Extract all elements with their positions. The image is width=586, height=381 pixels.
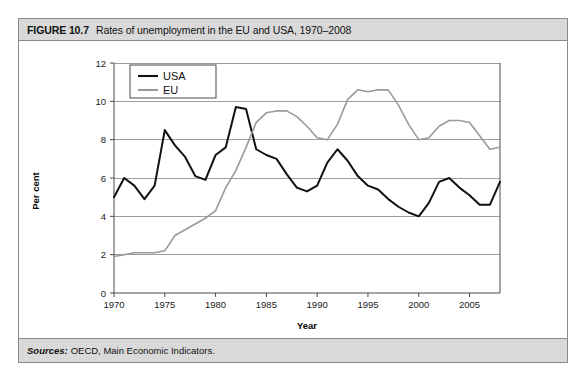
y-tick-label: 0 xyxy=(101,288,106,299)
plot-canvas: 024681012 197019751980198519901995200020… xyxy=(19,41,567,338)
y-tick-label: 8 xyxy=(101,134,106,145)
x-tick-label: 2005 xyxy=(459,299,480,310)
figure-title-bar: FIGURE 10.7 Rates of unemployment in the… xyxy=(19,19,567,41)
figure-container: FIGURE 10.7 Rates of unemployment in the… xyxy=(18,18,568,363)
figure-number: FIGURE 10.7 xyxy=(27,24,89,36)
x-tick-label: 1985 xyxy=(256,299,277,310)
series-line-eu xyxy=(114,90,500,257)
figure-source-bar: Sources: OECD, Main Economic Indicators. xyxy=(19,338,567,362)
legend-label-usa: USA xyxy=(163,70,186,82)
y-tick-label: 4 xyxy=(101,211,106,222)
data-series xyxy=(114,90,500,257)
figure-caption: Rates of unemployment in the EU and USA,… xyxy=(96,24,351,36)
series-line-usa xyxy=(114,107,500,216)
x-tick-label: 1990 xyxy=(307,299,328,310)
y-tick-label: 2 xyxy=(101,249,106,260)
unemployment-line-chart: 024681012 197019751980198519901995200020… xyxy=(19,41,567,339)
legend-label-eu: EU xyxy=(163,84,178,96)
x-tick-label: 1995 xyxy=(357,299,378,310)
x-axis-title: Year xyxy=(297,320,317,331)
source-label: Sources: xyxy=(27,345,68,356)
y-axis-tick-labels: 024681012 xyxy=(95,58,106,299)
y-tick-label: 12 xyxy=(95,58,106,69)
source-text: OECD, Main Economic Indicators. xyxy=(71,345,215,356)
x-tick-label: 1970 xyxy=(103,299,124,310)
y-tick-label: 10 xyxy=(95,96,106,107)
x-axis-tick-labels: 19701975198019851990199520002005 xyxy=(103,299,480,310)
x-tick-label: 1980 xyxy=(205,299,226,310)
y-axis-title: Per cent xyxy=(30,171,41,209)
x-tick-label: 2000 xyxy=(408,299,429,310)
x-tick-label: 1975 xyxy=(154,299,175,310)
y-tick-label: 6 xyxy=(101,173,106,184)
chart-legend: USAEU xyxy=(130,65,216,98)
